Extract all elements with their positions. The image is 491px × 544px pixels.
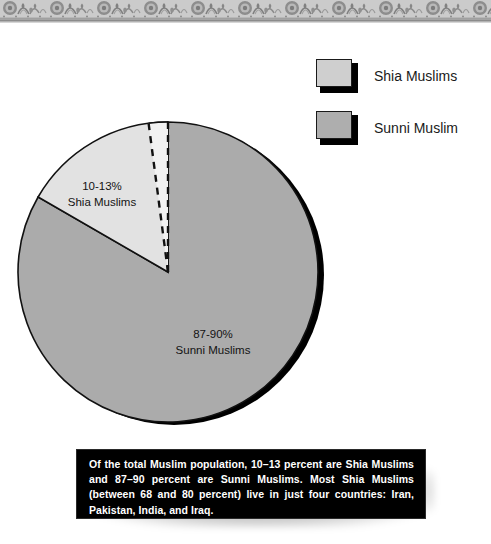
caption-box: Of the total Muslim population, 10–13 pe… [76,449,426,519]
slice-label-sunni-percent: 87-90% [193,328,233,340]
slice-label-sunni-name: Sunni Muslims [176,344,251,356]
legend-swatch-icon-shia [316,59,352,87]
legend-swatch-shia-wrap [316,59,358,93]
slice-label-shia-percent: 10-13% [82,180,122,192]
slice-label-shia-name: Shia Muslims [68,196,137,208]
chart-legend: Shia Muslims Sunni Muslim [316,57,491,161]
legend-swatch-icon-sunni [316,111,352,139]
legend-label-shia: Shia Muslims [374,68,457,84]
caption-text: Of the total Muslim population, 10–13 pe… [89,457,414,518]
legend-label-sunni: Sunni Muslim [374,120,458,136]
legend-item-sunni[interactable]: Sunni Muslim [316,109,491,147]
legend-swatch-sunni-wrap [316,111,358,145]
caption-container: Of the total Muslim population, 10–13 pe… [76,449,432,525]
legend-item-shia[interactable]: Shia Muslims [316,57,491,95]
decorative-border-band [0,0,491,23]
arabesque-pattern-icon [0,0,491,23]
